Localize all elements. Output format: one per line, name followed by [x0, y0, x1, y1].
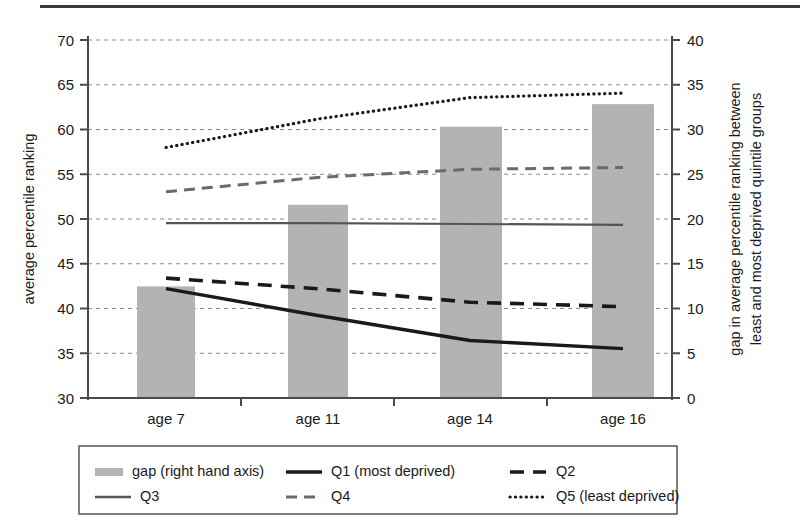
- legend-label-q5: Q5 (least deprived): [556, 488, 679, 504]
- legend-label-q4: Q4: [331, 488, 350, 504]
- line-q5-least-deprived: [166, 93, 623, 147]
- line-q4: [166, 168, 623, 192]
- y-axis-right-tick-labels: 40 35 30 25 20 15 10 5 0: [687, 32, 704, 407]
- y-tick-left-55: 55: [57, 166, 74, 183]
- x-label-age-14: age 14: [447, 410, 493, 427]
- bar-age-7: [137, 286, 195, 398]
- chart-legend: gap (right hand axis) Q1 (most deprived)…: [79, 446, 679, 514]
- legend-label-q3: Q3: [140, 488, 159, 504]
- y-tick-left-65: 65: [57, 76, 74, 93]
- line-q1-most-deprived: [166, 289, 623, 349]
- bar-age-11: [288, 205, 348, 398]
- y-tick-right-0: 0: [687, 390, 695, 407]
- bar-age-16: [592, 104, 654, 398]
- y-axis-right-title-line2: least and most deprived quintile groups: [748, 93, 764, 345]
- bar-series-gap: [137, 104, 654, 398]
- x-label-age-7: age 7: [147, 410, 185, 427]
- chart-figure: 70 65 60 55 50 45 40 35 30 40 35 30 25 2…: [0, 0, 806, 529]
- legend-label-q1: Q1 (most deprived): [331, 463, 455, 479]
- y-tick-right-10: 10: [687, 300, 704, 317]
- legend-label-gap: gap (right hand axis): [132, 463, 264, 479]
- y-axis-left-tick-labels: 70 65 60 55 50 45 40 35 30: [57, 32, 74, 407]
- legend-item-q5[interactable]: Q5 (least deprived): [510, 488, 679, 504]
- y-tick-right-35: 35: [687, 76, 704, 93]
- y-tick-right-30: 30: [687, 121, 704, 138]
- line-q3: [166, 223, 623, 225]
- y-tick-left-30: 30: [57, 390, 74, 407]
- y-axis-left-title: average percentile ranking: [21, 134, 37, 305]
- legend-item-gap[interactable]: gap (right hand axis): [95, 463, 264, 479]
- y-tick-right-5: 5: [687, 345, 695, 362]
- y-tick-right-40: 40: [687, 32, 704, 49]
- legend-item-q4[interactable]: Q4: [286, 488, 350, 504]
- legend-item-q1[interactable]: Q1 (most deprived): [286, 463, 455, 479]
- legend-item-q2[interactable]: Q2: [510, 463, 575, 479]
- legend-label-q2: Q2: [556, 463, 575, 479]
- bar-age-14: [440, 127, 502, 398]
- legend-item-q3[interactable]: Q3: [95, 488, 159, 504]
- y-tick-left-35: 35: [57, 345, 74, 362]
- y-tick-left-50: 50: [57, 211, 74, 228]
- y-axis-right-title-line1: gap in average percentile ranking betwee…: [727, 82, 743, 355]
- x-label-age-16: age 16: [600, 410, 646, 427]
- y-tick-left-40: 40: [57, 300, 74, 317]
- x-axis-category-labels: age 7 age 11 age 14 age 16: [147, 410, 646, 427]
- y-tick-left-45: 45: [57, 255, 74, 272]
- chart-canvas: 70 65 60 55 50 45 40 35 30 40 35 30 25 2…: [0, 0, 806, 529]
- legend-marker-bar-swatch: [95, 468, 123, 476]
- y-tick-left-60: 60: [57, 121, 74, 138]
- y-tick-right-20: 20: [687, 211, 704, 228]
- y-tick-right-25: 25: [687, 166, 704, 183]
- y-tick-left-70: 70: [57, 32, 74, 49]
- x-label-age-11: age 11: [296, 410, 341, 427]
- y-tick-right-15: 15: [687, 255, 704, 272]
